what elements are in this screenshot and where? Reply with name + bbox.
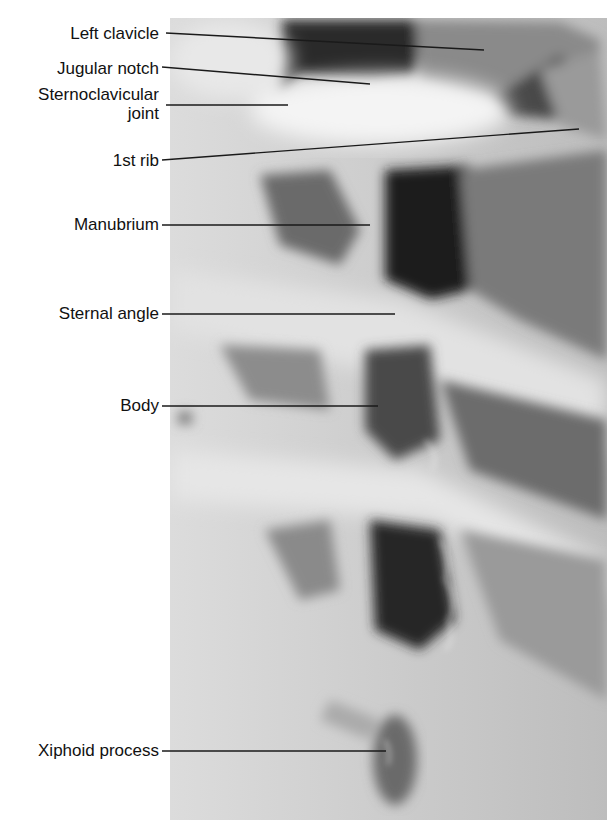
label-jugular-notch: Jugular notch (57, 59, 159, 78)
leader-1st-rib (162, 129, 579, 160)
leader-left-clavicle (166, 33, 484, 50)
label-manubrium: Manubrium (74, 215, 159, 234)
label-body: Body (120, 396, 159, 415)
label-xiphoid-process: Xiphoid process (38, 741, 159, 760)
label-sternoclavicular: Sternoclavicular (38, 85, 159, 104)
label-sternal-angle: Sternal angle (59, 304, 159, 323)
label-1st-rib: 1st rib (113, 151, 159, 170)
label-sternoclavicular-joint-line2: joint (128, 104, 159, 123)
leader-jugular-notch (162, 67, 370, 84)
leader-lines (0, 0, 611, 831)
label-left-clavicle: Left clavicle (70, 24, 159, 43)
